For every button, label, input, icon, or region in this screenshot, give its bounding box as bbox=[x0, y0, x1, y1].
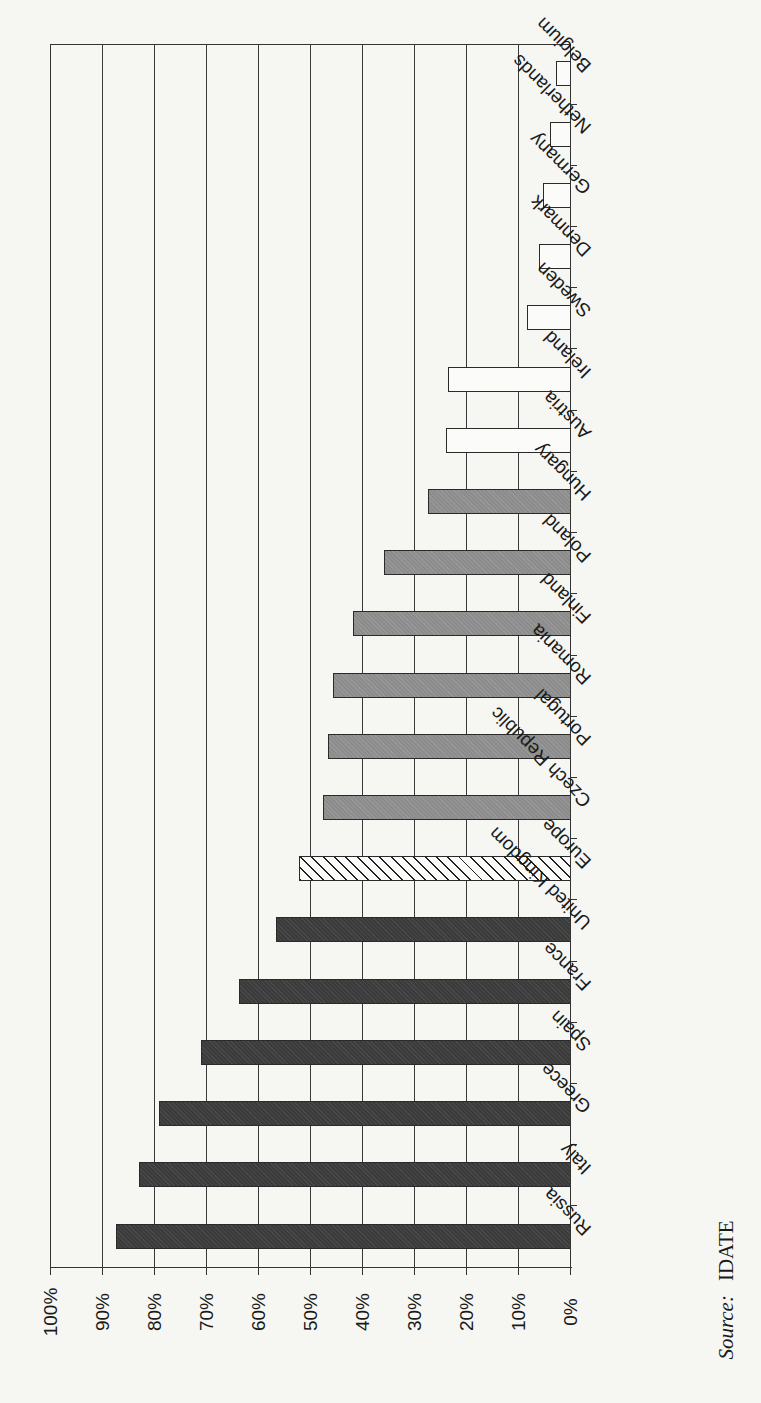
gridline bbox=[414, 44, 415, 1268]
value-tick bbox=[206, 1267, 207, 1275]
bar-hungary bbox=[428, 489, 571, 514]
bar-greece bbox=[159, 1101, 571, 1126]
source-note: Source:IDATE bbox=[714, 1220, 739, 1359]
gridline bbox=[154, 44, 155, 1268]
value-tick-label: 50% bbox=[301, 1282, 321, 1342]
source-label: Source: bbox=[714, 1295, 738, 1360]
value-tick bbox=[258, 1267, 259, 1275]
gridline bbox=[206, 44, 207, 1268]
value-tick-label: 90% bbox=[93, 1282, 113, 1342]
bar-france bbox=[239, 979, 571, 1004]
gridline bbox=[466, 44, 467, 1268]
bar-russia bbox=[116, 1224, 571, 1249]
gridline bbox=[102, 44, 103, 1268]
horizontal-bar-chart: 0%10%20%30%40%50%60%70%80%90%100% Belgiu… bbox=[0, 0, 761, 1403]
value-tick-label: 40% bbox=[353, 1282, 373, 1342]
source-value: IDATE bbox=[714, 1220, 738, 1281]
value-tick-label: 10% bbox=[509, 1282, 529, 1342]
value-tick-label: 20% bbox=[457, 1282, 477, 1342]
value-tick bbox=[414, 1267, 415, 1275]
value-tick-label: 100% bbox=[41, 1282, 61, 1342]
value-tick-label: 70% bbox=[197, 1282, 217, 1342]
value-tick-label: 80% bbox=[145, 1282, 165, 1342]
value-tick bbox=[466, 1267, 467, 1275]
value-tick bbox=[154, 1267, 155, 1275]
value-tick-label: 60% bbox=[249, 1282, 269, 1342]
bar-spain bbox=[201, 1040, 571, 1065]
value-tick-label: 0% bbox=[561, 1282, 581, 1342]
value-tick bbox=[362, 1267, 363, 1275]
bar-italy bbox=[139, 1162, 571, 1187]
value-axis bbox=[50, 1267, 572, 1268]
value-tick bbox=[310, 1267, 311, 1275]
gridline bbox=[258, 44, 259, 1268]
gridline bbox=[362, 44, 363, 1268]
value-tick bbox=[570, 1267, 571, 1275]
value-tick bbox=[102, 1267, 103, 1275]
bar-sweden bbox=[527, 305, 571, 330]
value-tick-label: 30% bbox=[405, 1282, 425, 1342]
bar-united-kingdom bbox=[276, 917, 571, 942]
bar-czech-republic bbox=[323, 795, 571, 820]
gridline bbox=[518, 44, 519, 1268]
gridline bbox=[310, 44, 311, 1268]
bar-poland bbox=[384, 550, 571, 575]
value-tick bbox=[50, 1267, 51, 1275]
value-tick bbox=[518, 1267, 519, 1275]
